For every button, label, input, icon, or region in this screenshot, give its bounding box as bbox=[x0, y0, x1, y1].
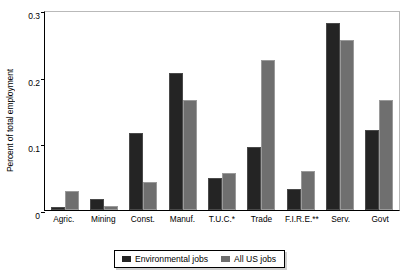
x-tick-label: T.U.C.* bbox=[206, 214, 238, 228]
y-tick-mark bbox=[41, 212, 45, 213]
bar bbox=[261, 60, 275, 210]
x-axis-labels: Agric.MiningConst.Manuf.T.U.C.*TradeF.I.… bbox=[44, 214, 400, 228]
x-tick-label: Trade bbox=[246, 214, 278, 228]
x-tick-label: Mining bbox=[87, 214, 119, 228]
bar bbox=[208, 178, 222, 210]
bar bbox=[143, 182, 157, 210]
bar bbox=[104, 206, 118, 210]
x-tick-label: Serv. bbox=[325, 214, 357, 228]
legend-label: All US jobs bbox=[234, 254, 276, 264]
bar bbox=[90, 199, 104, 210]
bar-group bbox=[245, 12, 277, 210]
x-tick-label: Const. bbox=[127, 214, 159, 228]
bar bbox=[129, 133, 143, 210]
bar bbox=[301, 171, 315, 210]
bar-group bbox=[324, 12, 356, 210]
legend-swatch-icon bbox=[122, 256, 131, 262]
bar bbox=[65, 191, 79, 210]
bar bbox=[365, 130, 379, 210]
legend-label: Environmental jobs bbox=[135, 254, 208, 264]
bar bbox=[222, 173, 236, 210]
bar bbox=[287, 189, 301, 210]
x-tick-label: Agric. bbox=[48, 214, 80, 228]
bar-group bbox=[206, 12, 238, 210]
bar bbox=[340, 40, 354, 210]
x-tick-label: Manuf. bbox=[166, 214, 198, 228]
chart-legend: Environmental jobsAll US jobs bbox=[114, 250, 285, 268]
y-axis-label: Percent of total employment bbox=[2, 40, 18, 200]
bar-chart: Percent of total employment 00.10.20.3 A… bbox=[0, 0, 413, 275]
bar-group bbox=[49, 12, 81, 210]
bar bbox=[247, 147, 261, 210]
legend-swatch-icon bbox=[221, 256, 230, 262]
bar bbox=[379, 100, 393, 210]
bar bbox=[51, 207, 65, 210]
bar-groups bbox=[45, 12, 399, 210]
legend-item: Environmental jobs bbox=[122, 254, 208, 264]
bar-group bbox=[88, 12, 120, 210]
bar-group bbox=[167, 12, 199, 210]
plot-area: 00.10.20.3 bbox=[44, 11, 400, 211]
bar-group bbox=[127, 12, 159, 210]
bar bbox=[169, 73, 183, 210]
bar-group bbox=[363, 12, 395, 210]
x-tick-label: Govt bbox=[364, 214, 396, 228]
x-tick-label: F.I.R.E.** bbox=[285, 214, 317, 228]
bar bbox=[183, 100, 197, 210]
bar bbox=[326, 23, 340, 210]
legend-item: All US jobs bbox=[221, 254, 276, 264]
bar-group bbox=[285, 12, 317, 210]
